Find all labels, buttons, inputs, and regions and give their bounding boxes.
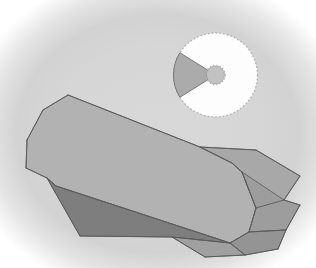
viewer-canvas[interactable]	[0, 0, 316, 268]
faceted-prism-solid[interactable]	[26, 95, 300, 257]
scene-root	[0, 0, 316, 268]
disc-hub[interactable]	[207, 66, 225, 84]
sector-disc-inset[interactable]	[174, 33, 258, 117]
